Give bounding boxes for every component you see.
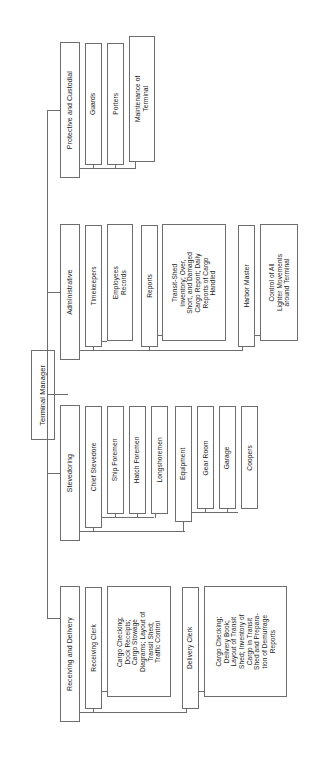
node-equipment[interactable]: Equipment: [175, 406, 192, 522]
node-label: Delivery Clerk: [187, 627, 195, 669]
node-label: Control of All Lighter Movements around …: [268, 254, 291, 311]
node-label: Cargo Checking; Delivery Book; Layout of…: [215, 613, 276, 670]
connector-garage-drop: [227, 509, 228, 513]
node-label: Timekeepers: [90, 267, 98, 306]
node-label: Ship Foremen: [112, 439, 120, 482]
connector-porters-drop: [115, 165, 116, 169]
connector-timekeepers-to-employees-records: [102, 341, 107, 342]
connector-root-to-trunk: [47, 394, 68, 395]
node-delivery-clerk[interactable]: Delivery Clerk: [182, 587, 199, 709]
connector-delivery-clerk-drop: [186, 709, 187, 713]
node-label: Chief Stevedore: [90, 443, 98, 492]
node-label: Gear Room: [202, 440, 210, 475]
node-protective-and-custodial[interactable]: Protective and Custodial: [60, 42, 80, 178]
connector-chief-stevedore-children-spine: [102, 517, 154, 518]
node-reports[interactable]: Reports: [141, 225, 158, 347]
node-employees-records[interactable]: Employees Records: [107, 224, 133, 341]
node-label: Reports: [146, 274, 154, 298]
node-reports-detail[interactable]: Transit-Shed Inventory; Over, Short, and…: [162, 224, 226, 341]
connector-receiving-clerk-drop: [93, 709, 94, 713]
node-label: Transit-Shed Inventory; Over, Short, and…: [171, 252, 217, 314]
node-label: Equipment: [180, 448, 188, 480]
node-maintenance-of-terminal[interactable]: Maintenance of Terminal: [129, 36, 155, 162]
node-longshoremen[interactable]: Longshoremen: [151, 406, 168, 514]
node-hatch-foremen[interactable]: Hatch Foremen: [129, 406, 146, 514]
connector-equipment-drop: [183, 522, 184, 532]
node-label: Porters: [112, 93, 120, 115]
node-gear-room[interactable]: Gear Room: [197, 406, 214, 509]
connector-administrative-spine: [80, 350, 242, 351]
node-receiving-clerk[interactable]: Receiving Clerk: [85, 587, 102, 709]
node-label: Guards: [90, 93, 98, 115]
connector-gear-room-drop: [205, 509, 206, 513]
connector-receiving-clerk-to-detail: [102, 691, 107, 692]
connector-timekeepers-drop: [93, 347, 94, 351]
node-label: Coopers: [246, 445, 254, 471]
node-stevedoring[interactable]: Stevedoring: [60, 405, 80, 541]
node-label: Stevedoring: [66, 454, 74, 492]
node-porters[interactable]: Porters: [107, 43, 124, 165]
connector-equipment-children-spine: [192, 512, 238, 513]
connector-main-trunk: [47, 110, 48, 618]
connector-stevedoring-spine: [80, 531, 185, 532]
node-label: Protective and Custodial: [66, 71, 74, 149]
node-garage[interactable]: Garage: [219, 406, 236, 509]
node-guards[interactable]: Guards: [85, 43, 102, 165]
node-label: Garage: [224, 446, 232, 469]
connector-longshoremen-drop: [155, 514, 156, 518]
connector-harbor-master-to-lighter: [255, 335, 260, 336]
node-lighter-movements[interactable]: Control of All Lighter Movements around …: [260, 224, 298, 341]
node-timekeepers[interactable]: Timekeepers: [85, 225, 102, 347]
node-receiving-clerk-detail[interactable]: Cargo Checking; Dock Receipts; Cargo Sto…: [107, 586, 171, 697]
connector-ship-foremen-drop: [115, 514, 116, 518]
node-label: Hatch Foremen: [134, 437, 142, 484]
node-label: Receiving and Delivery: [66, 617, 74, 691]
connector-harbor-master-drop: [242, 347, 243, 351]
node-receiving-and-delivery[interactable]: Receiving and Delivery: [60, 586, 80, 722]
node-label: Maintenance of Terminal: [134, 76, 150, 123]
node-label: Harbor Master: [243, 264, 251, 307]
connector-maintenance-drop: [135, 162, 136, 169]
node-harbor-master[interactable]: Harbor Master: [238, 225, 255, 347]
connector-hatch-foremen-drop: [137, 514, 138, 518]
node-chief-stevedore[interactable]: Chief Stevedore: [85, 406, 102, 528]
connector-guards-drop: [93, 165, 94, 169]
node-coopers[interactable]: Coopers: [241, 406, 258, 509]
node-label: Longshoremen: [156, 437, 164, 482]
connector-protective-spine: [80, 168, 136, 169]
node-delivery-clerk-detail[interactable]: Cargo Checking; Delivery Book; Layout of…: [204, 586, 287, 697]
node-label: Receiving Clerk: [90, 624, 98, 672]
org-chart: Terminal Manager Protective and Custodia…: [0, 0, 327, 772]
node-label: Employees Records: [112, 266, 127, 299]
connector-reports-drop: [149, 347, 150, 351]
node-ship-foremen[interactable]: Ship Foremen: [107, 406, 124, 514]
node-administrative[interactable]: Administrative: [60, 224, 80, 360]
node-label: Administrative: [66, 269, 74, 314]
connector-receiving-spine: [80, 712, 186, 713]
node-label: Cargo Checking; Dock Receipts; Cargo Sto…: [116, 611, 162, 671]
connector-delivery-clerk-to-detail: [199, 691, 204, 692]
connector-reports-to-detail: [158, 335, 162, 336]
node-terminal-manager[interactable]: Terminal Manager: [31, 350, 55, 440]
connector-chief-stevedore-drop: [93, 528, 94, 532]
